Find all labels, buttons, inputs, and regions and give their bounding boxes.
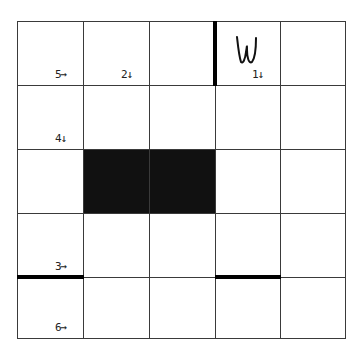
grid-cell[interactable]	[149, 277, 216, 339]
blocked-cell	[83, 149, 150, 214]
puzzle-board: 5→2↓1↓4↓3→6→	[17, 21, 345, 338]
grid-cell[interactable]	[17, 213, 84, 278]
grid-cell[interactable]	[280, 21, 346, 86]
wall-vertical	[213, 21, 217, 86]
wall-horizontal	[17, 275, 84, 279]
grid-cell[interactable]	[17, 85, 84, 150]
grid-cell[interactable]	[17, 277, 84, 339]
grid-cell[interactable]	[149, 85, 216, 150]
grid-cell[interactable]	[215, 85, 281, 150]
grid-cell[interactable]	[215, 213, 281, 278]
clue-label: 2↓	[121, 68, 132, 81]
clue-label: 1↓	[252, 68, 263, 81]
grid-cell[interactable]	[17, 21, 84, 86]
handwritten-w-mark	[235, 34, 259, 66]
grid-cell[interactable]	[215, 149, 281, 214]
grid-cell[interactable]	[149, 21, 216, 86]
blocked-cell	[149, 149, 216, 214]
grid-cell[interactable]	[280, 277, 346, 339]
grid-cell[interactable]	[83, 85, 150, 150]
grid-cell[interactable]	[83, 213, 150, 278]
grid-cell[interactable]	[17, 149, 84, 214]
grid-cell[interactable]	[149, 213, 216, 278]
grid-cell[interactable]	[280, 213, 346, 278]
wall-horizontal	[215, 275, 281, 279]
grid-cell[interactable]	[280, 85, 346, 150]
clue-label: 6→	[55, 321, 66, 334]
grid-cell[interactable]	[83, 21, 150, 86]
grid-cell[interactable]	[83, 277, 150, 339]
clue-label: 5→	[55, 68, 66, 81]
grid-cell[interactable]	[215, 277, 281, 339]
clue-label: 3→	[55, 260, 66, 273]
grid-cell[interactable]	[280, 149, 346, 214]
clue-label: 4↓	[55, 132, 66, 145]
